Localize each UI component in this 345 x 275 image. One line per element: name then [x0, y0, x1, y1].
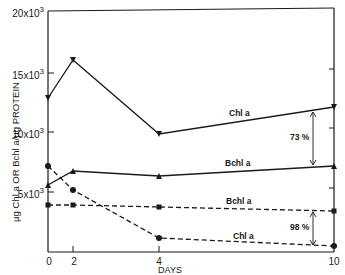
- svg-text:73 %: 73 %: [290, 132, 310, 142]
- series-bchl-a-dashed: [46, 203, 337, 214]
- svg-text:98 %: 98 %: [290, 222, 310, 232]
- chart: 20x103 15x103 10x103 5x103 0 2 4 10 DAYS…: [0, 0, 345, 275]
- x-axis-label: DAYS: [158, 265, 182, 275]
- x-ticks: [73, 246, 159, 252]
- svg-text:10: 10: [328, 256, 340, 267]
- series-bchl-a-solid: [45, 163, 337, 188]
- svg-text:Bchl a: Bchl a: [225, 158, 251, 168]
- x-tick-labels: 0 2 4 10: [46, 256, 340, 267]
- svg-text:Chl a: Chl a: [233, 231, 254, 241]
- series-chl-a-solid: [45, 57, 337, 137]
- plot-frame: [48, 8, 334, 252]
- series-labels: Chl a Bchl a Bchl a Chl a: [225, 108, 254, 241]
- svg-text:0: 0: [46, 256, 52, 267]
- svg-text:5x103: 5x103: [18, 186, 45, 200]
- svg-text:2: 2: [71, 256, 77, 267]
- annotation-73-percent: 73 %: [290, 112, 316, 165]
- svg-text:20x103: 20x103: [12, 5, 44, 19]
- svg-text:Chl a: Chl a: [229, 108, 250, 118]
- svg-text:15x103: 15x103: [12, 67, 44, 81]
- y-axis-label: µg Chl a OR Bchl a/µg PROTEIN: [10, 82, 21, 222]
- annotation-98-percent: 98 %: [290, 212, 316, 245]
- svg-text:Bchl a: Bchl a: [226, 196, 252, 206]
